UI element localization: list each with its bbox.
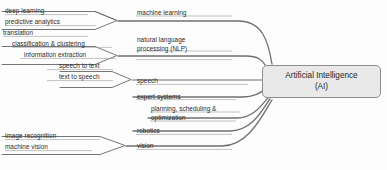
branch-label-planning-line2[interactable]: optimization bbox=[151, 114, 186, 122]
leaf-label-classification-clustering[interactable]: classification & clustering bbox=[12, 40, 85, 48]
root-node-artificial-intelligence[interactable]: Artificial Intelligence (AI) bbox=[262, 65, 381, 98]
branch-label-expert-systems[interactable]: expert systems bbox=[137, 93, 181, 101]
branch-label-machine-learning[interactable]: machine learning bbox=[137, 9, 186, 17]
leaf-label-image-recognition[interactable]: image recognition bbox=[5, 132, 56, 140]
leaf-label-information-extraction[interactable]: information extraction bbox=[24, 51, 86, 59]
leaf-label-machine-vision[interactable]: machine vision bbox=[5, 143, 48, 151]
leaf-label-translation[interactable]: translation bbox=[3, 29, 33, 37]
branch-label-planning-line1[interactable]: planning, scheduling & bbox=[151, 105, 216, 113]
leaf-label-speech-to-text[interactable]: speech to text bbox=[59, 62, 100, 70]
leaf-label-predictive-analytics[interactable]: predictive analytics bbox=[5, 18, 60, 26]
branch-label-nlp-line2[interactable]: processing (NLP) bbox=[137, 45, 187, 53]
branch-label-vision[interactable]: vision bbox=[137, 142, 154, 150]
leaf-label-deep-learning[interactable]: deep learning bbox=[5, 7, 44, 15]
root-node-label-line1: Artificial Intelligence bbox=[285, 71, 357, 82]
branch-label-nlp-line1[interactable]: natural language bbox=[137, 36, 185, 44]
diagram-canvas: deep learning predictive analytics trans… bbox=[0, 0, 387, 170]
branch-label-speech[interactable]: speech bbox=[137, 77, 158, 85]
root-node-label-line2: (AI) bbox=[315, 82, 328, 93]
leaf-label-text-to-speech[interactable]: text to speech bbox=[59, 73, 100, 81]
branch-label-robotics[interactable]: robotics bbox=[137, 127, 160, 135]
